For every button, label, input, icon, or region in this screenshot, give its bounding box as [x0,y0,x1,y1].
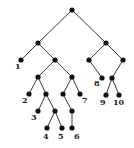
edge-d-leaf2 [29,77,38,94]
edge-d-f [38,77,46,94]
edge-b-j [89,43,106,60]
node-k [120,57,125,62]
leaf-label-5: 5 [58,131,64,141]
leaf-label-9: 9 [100,97,106,107]
edge-f-g [46,94,55,111]
node-leaf5 [59,125,64,130]
edge-f-leaf3 [38,94,46,111]
edge-root-a [38,10,72,43]
edge-j-leaf8 [89,60,102,78]
leaf-label-10: 10 [113,97,125,107]
edge-a-leaf1 [21,43,38,60]
leaf-label-8: 8 [94,78,100,88]
edge-k-l [112,60,123,78]
edge-l-leaf10 [112,78,119,95]
node-b [103,40,108,45]
node-g [52,108,57,113]
node-c [52,57,57,62]
node-leaf8 [99,75,104,80]
node-f [43,91,48,96]
edge-root-b [72,10,106,43]
node-leaf4 [44,125,49,130]
node-a [35,40,40,45]
tree-diagram: 12345768910 [0,0,134,148]
leaf-label-3: 3 [31,112,37,122]
node-h [60,91,65,96]
leaf-label-7: 7 [82,95,88,105]
node-e [69,74,74,79]
edge-a-c [38,43,55,60]
edge-e-leaf7 [72,77,80,94]
leaf-label-1: 1 [15,61,21,71]
node-i [69,108,74,113]
edge-h-i [63,94,72,111]
leaf-label-6: 6 [74,131,80,141]
node-root [69,7,74,12]
leaf-label-2: 2 [22,95,28,105]
node-d [35,74,40,79]
edge-b-k [106,43,123,60]
node-j [86,57,91,62]
edge-c-e [55,60,72,77]
leaf-label-4: 4 [43,131,49,141]
edge-g-leaf4 [47,111,55,128]
node-leaf6 [69,125,74,130]
edge-g-leaf5 [55,111,62,128]
edge-e-h [63,77,72,94]
edge-l-leaf9 [106,78,112,95]
node-l [109,75,114,80]
edge-c-d [38,60,55,77]
